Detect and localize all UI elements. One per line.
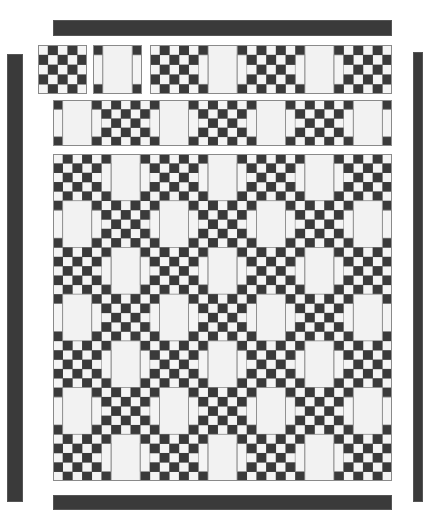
- alternate-block-center: [160, 388, 189, 435]
- alternate-block-center: [208, 247, 237, 294]
- alternate-block-center: [305, 247, 334, 294]
- alternate-block-center: [208, 341, 237, 388]
- alternate-block-center: [63, 201, 92, 248]
- alternate-block-center: [63, 294, 92, 341]
- alternate-block-center: [353, 294, 382, 341]
- alternate-block-center: [208, 434, 237, 481]
- five-block-row: [150, 45, 392, 94]
- bottom-border: [53, 495, 392, 510]
- single-checker-block: [38, 45, 87, 94]
- alternate-block-center: [353, 100, 382, 146]
- alternate-block-center: [256, 201, 285, 248]
- alternate-block-center: [208, 154, 237, 201]
- alternate-block-center: [111, 341, 140, 388]
- alternate-block-center: [256, 294, 285, 341]
- alternate-block-center: [305, 434, 334, 481]
- alternate-block-center: [353, 201, 382, 248]
- assembled-quilt-center: [53, 154, 392, 481]
- alternate-block-center: [63, 388, 92, 435]
- seven-block-row: [53, 100, 392, 146]
- alternate-block-center: [208, 45, 237, 94]
- alternate-block-center: [305, 45, 334, 94]
- alternate-block-center: [63, 100, 92, 146]
- single-alternate-block: [93, 45, 142, 94]
- alternate-block-center: [111, 154, 140, 201]
- alternate-block-center: [353, 388, 382, 435]
- top-border: [53, 20, 392, 36]
- alternate-block-center: [256, 100, 285, 146]
- alternate-block-center: [111, 247, 140, 294]
- alternate-block-center: [305, 154, 334, 201]
- alternate-block-center: [256, 388, 285, 435]
- alternate-block-center: [160, 100, 189, 146]
- alternate-block-center: [160, 201, 189, 248]
- alternate-block-center: [103, 45, 132, 94]
- alternate-block-center: [305, 341, 334, 388]
- alternate-block-center: [160, 294, 189, 341]
- right-border: [413, 52, 423, 502]
- left-border: [7, 54, 23, 502]
- alternate-block-center: [111, 434, 140, 481]
